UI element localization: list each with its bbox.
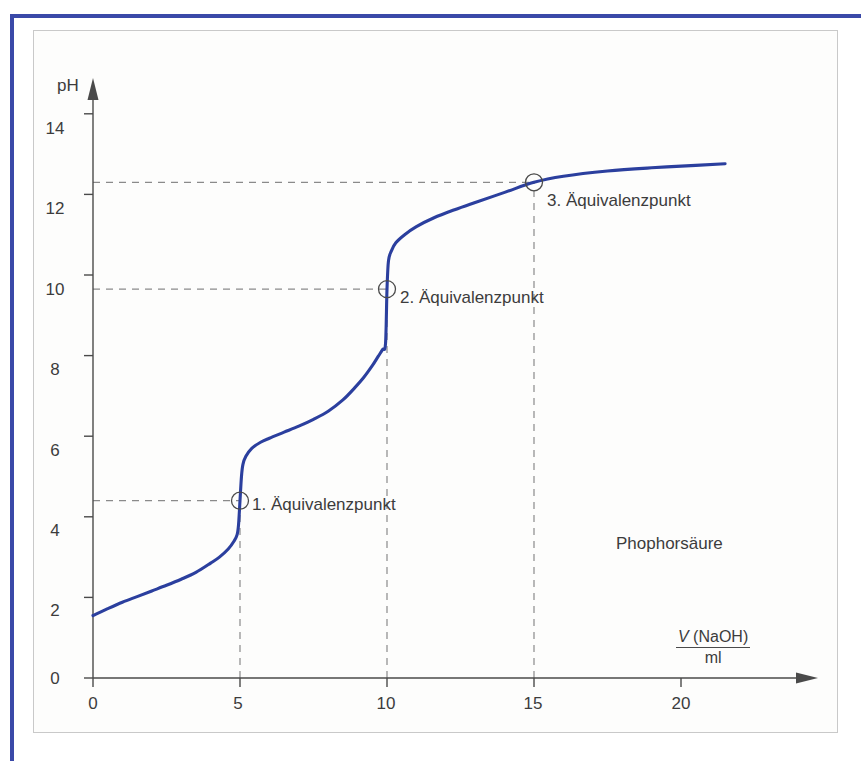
y-tick-label-8: 8 — [40, 360, 70, 380]
y-tick-label-4: 4 — [40, 521, 70, 541]
figure-page: pH 14 12 10 8 6 4 2 0 0 5 10 15 20 V (Na… — [0, 0, 861, 761]
x-tick-label-20: 20 — [666, 694, 696, 714]
x-axis-title-denominator: ml — [676, 648, 750, 667]
x-tick-label-15: 15 — [518, 694, 548, 714]
x-axis-ticks — [93, 678, 681, 687]
y-axis-ticks — [84, 114, 93, 678]
x-axis-reagent: (NaOH) — [689, 628, 749, 645]
y-tick-label-10: 10 — [40, 280, 70, 300]
x-tick-label-10: 10 — [371, 694, 401, 714]
y-tick-label-12: 12 — [40, 199, 70, 219]
x-tick-label-5: 5 — [223, 694, 253, 714]
y-tick-label-14: 14 — [40, 119, 70, 139]
y-tick-label-6: 6 — [40, 441, 70, 461]
axes — [88, 78, 819, 684]
eq-point-2-label: 2. Äquivalenzpunkt — [400, 288, 544, 308]
x-tick-label-0: 0 — [78, 694, 108, 714]
y-tick-label-0: 0 — [40, 669, 70, 689]
x-axis-title: V (NaOH) ml — [676, 628, 750, 668]
eq-point-3-label: 3. Äquivalenzpunkt — [547, 191, 691, 211]
y-axis-title: pH — [57, 76, 79, 96]
y-axis-arrowhead — [88, 78, 99, 100]
guide-lines — [93, 182, 534, 678]
substance-label: Phophorsäure — [616, 534, 723, 554]
x-axis-variable-v: V — [678, 628, 689, 645]
x-axis-title-numerator: V (NaOH) — [676, 628, 750, 648]
eq-point-1-label: 1. Äquivalenzpunkt — [252, 495, 396, 515]
y-tick-label-2: 2 — [40, 601, 70, 621]
x-axis-arrowhead — [796, 673, 818, 684]
